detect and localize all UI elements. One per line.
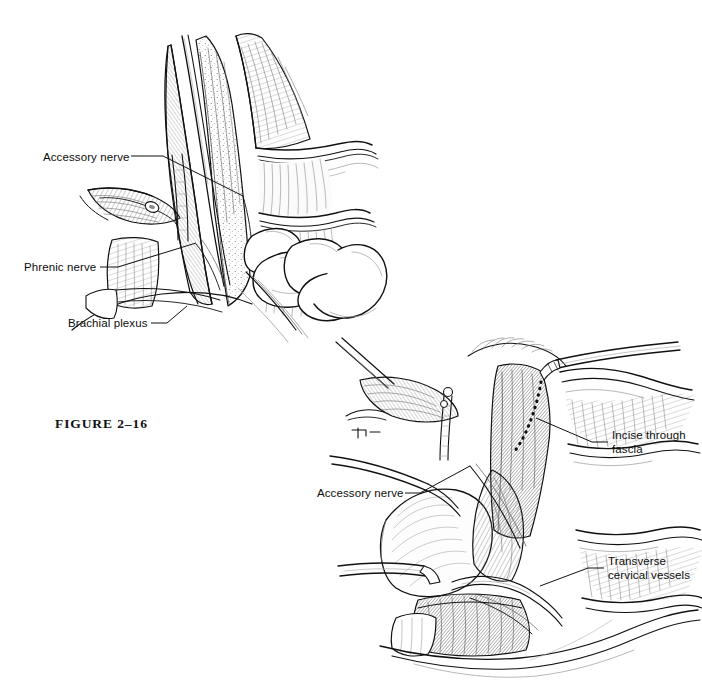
label-phrenic-nerve: Phrenic nerve: [24, 261, 96, 275]
paper-background: [0, 0, 702, 698]
figure-page: Accessory nerve Phrenic nerve Brachial p…: [0, 0, 702, 698]
label-transverse-cervical-vessels-line2: cervical vessels: [608, 569, 690, 583]
label-accessory-nerve-lower: Accessory nerve: [317, 487, 404, 501]
label-transverse-cervical-vessels-line1: Transverse: [608, 555, 666, 569]
surgical-illustration-canvas: [0, 0, 702, 698]
figure-number-caption: FIGURE 2–16: [55, 416, 148, 432]
deep-muscle-band: [258, 158, 332, 218]
label-incise-through-fascia-line1: Incise through: [612, 429, 686, 443]
label-brachial-plexus: Brachial plexus: [68, 317, 147, 331]
label-incise-through-fascia-line2: fascia: [612, 443, 643, 457]
label-accessory-nerve-upper: Accessory nerve: [43, 151, 130, 165]
